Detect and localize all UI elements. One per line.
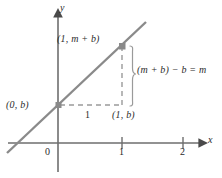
diagram-canvas: [0, 0, 222, 178]
label-point-foot: (1, b): [112, 110, 135, 120]
label-rise-expression: (m + b) − b = m: [137, 65, 206, 75]
y-axis-label: y: [60, 3, 65, 13]
label-origin: 0: [45, 147, 50, 157]
point-marker-intercept: [56, 102, 62, 108]
rise-brace: [130, 46, 136, 106]
x-tick-label-2: 2: [180, 147, 185, 157]
label-point-intercept: (0, b): [6, 100, 29, 110]
x-axis-label: x: [208, 135, 213, 145]
point-marker-top: [119, 43, 126, 50]
label-point-top: (1, m + b): [57, 34, 100, 44]
x-tick-label-1: 1: [119, 147, 124, 157]
label-run-length: 1: [85, 110, 90, 120]
slope-diagram: (1, m + b) (0, b) (1, b) 1 (m + b) − b =…: [0, 0, 222, 178]
